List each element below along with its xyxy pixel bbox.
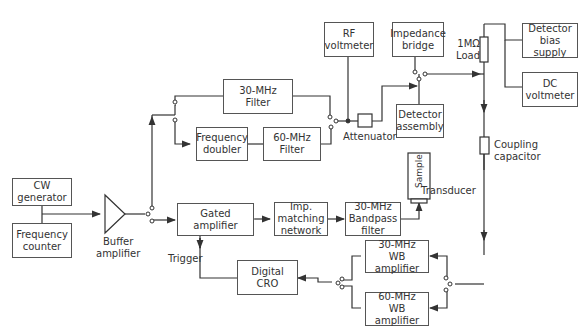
label: network <box>281 225 322 237</box>
cw-generator-block: CWgenerator <box>12 178 72 206</box>
label: bridge <box>402 40 434 52</box>
label: 30-MHz <box>239 85 277 97</box>
label: doubler <box>203 144 241 156</box>
label: CW <box>34 180 51 192</box>
label: counter <box>23 241 61 253</box>
label: Frequency <box>196 132 248 144</box>
label: capacitor <box>494 151 541 162</box>
transducer-label: Transducer <box>421 185 476 197</box>
label: 60-MHz <box>378 291 416 303</box>
detector-bias-supply-block: Detectorbias supply <box>522 23 578 58</box>
frequency-counter-block: Frequencycounter <box>12 223 72 258</box>
wb-amplifier-30mhz-block: 30-MHzWB amplifier <box>365 240 429 273</box>
label: Digital <box>251 266 283 278</box>
bandpass-filter-block: 30-MHzBandpassfilter <box>345 202 401 236</box>
label: matching <box>277 213 324 225</box>
label: Filter <box>246 97 271 109</box>
label: 30-MHz <box>354 201 392 213</box>
label: voltmeter <box>526 90 575 102</box>
label: amplifier <box>96 248 140 259</box>
label: 60-MHz <box>273 132 311 144</box>
label: Imp. <box>290 201 312 213</box>
label: voltmeter <box>325 40 374 52</box>
label: Filter <box>280 144 305 156</box>
filter-30mhz-block: 30-MHzFilter <box>223 79 293 114</box>
label: Buffer <box>103 236 133 247</box>
label: generator <box>17 192 66 204</box>
frequency-doubler-block: Frequencydoubler <box>196 127 248 161</box>
label: Gated <box>200 208 230 220</box>
dc-voltmeter-block: DCvoltmeter <box>522 72 578 107</box>
imp-matching-network-block: Imp.matchingnetwork <box>274 202 328 236</box>
detector-assembly-block: Detectorassembly <box>396 104 444 138</box>
label: WB amplifier <box>366 303 428 327</box>
wb-amplifier-60mhz-block: 60-MHzWB amplifier <box>365 292 429 326</box>
label: assembly <box>396 121 444 133</box>
label: Impedance <box>390 28 446 40</box>
rf-voltmeter-block: RFvoltmeter <box>324 22 374 57</box>
label: Detector <box>528 23 572 35</box>
label: Detector <box>398 109 442 121</box>
label: DC <box>543 78 558 90</box>
filter-60mhz-block: 60-MHzFilter <box>263 127 321 161</box>
attenuator-label: Attenuator <box>343 131 397 143</box>
label: RF <box>343 28 356 40</box>
label: Bandpass <box>349 213 398 225</box>
label: WB amplifier <box>366 251 428 275</box>
label: Coupling <box>494 139 538 150</box>
label: 1MΩ <box>457 38 480 49</box>
label: Frequency <box>16 229 68 241</box>
digital-cro-block: DigitalCRO <box>237 260 298 295</box>
label: Load <box>456 50 480 61</box>
label: filter <box>361 225 384 237</box>
label: CRO <box>257 278 279 290</box>
coupling-capacitor-label: Couplingcapacitor <box>494 139 541 163</box>
label: bias supply <box>523 35 577 59</box>
gated-amplifier-block: Gatedamplifier <box>177 203 254 236</box>
impedance-bridge-block: Impedancebridge <box>392 22 444 57</box>
label: 30-MHz <box>378 239 416 251</box>
load-label: 1MΩLoad <box>456 38 480 62</box>
buffer-amplifier-label: Bufferamplifier <box>96 236 140 260</box>
trigger-label: Trigger <box>168 253 203 265</box>
label: amplifier <box>193 220 237 232</box>
